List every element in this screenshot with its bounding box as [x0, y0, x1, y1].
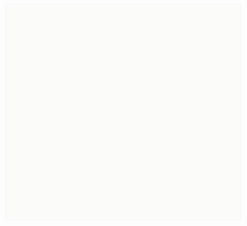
board-grid — [6, 4, 240, 220]
board-surface — [6, 4, 240, 220]
xiangqi-board-app — [0, 0, 247, 226]
